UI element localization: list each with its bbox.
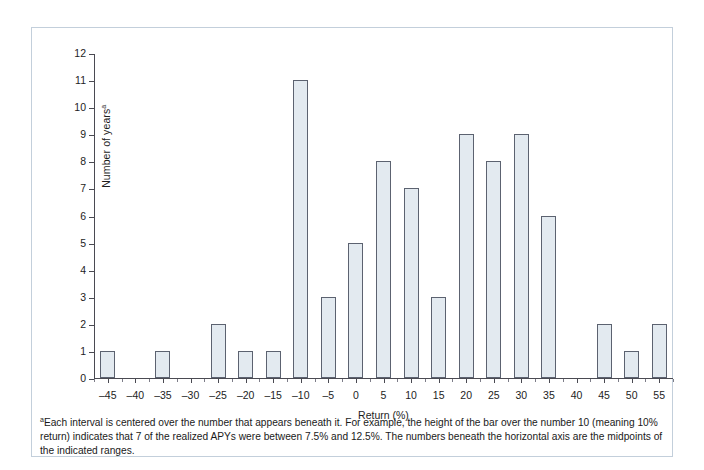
x-axis-minor-tick xyxy=(315,379,316,382)
y-axis-tick-label: 8 xyxy=(80,155,86,167)
y-axis-tick-label: 4 xyxy=(80,264,86,276)
bar xyxy=(321,297,336,378)
y-axis-tick-label: 11 xyxy=(75,74,86,86)
x-axis-tick-label: 45 xyxy=(598,389,610,401)
x-axis-tick-label: –25 xyxy=(209,389,227,401)
y-axis-tick-mark xyxy=(89,352,94,353)
x-axis-tick-mark xyxy=(604,379,605,383)
bar xyxy=(541,216,556,379)
x-axis-tick-mark xyxy=(356,379,357,383)
y-axis-tick-mark xyxy=(89,81,94,82)
x-axis-tick-mark xyxy=(135,379,136,383)
x-axis-minor-tick xyxy=(535,379,536,382)
x-axis-tick-label: 0 xyxy=(353,389,359,401)
bar xyxy=(155,351,170,378)
x-axis-minor-tick xyxy=(149,379,150,382)
bar xyxy=(431,297,446,378)
x-axis-tick-label: 25 xyxy=(488,389,500,401)
x-axis-minor-tick xyxy=(94,379,95,382)
x-axis-minor-tick xyxy=(480,379,481,382)
x-axis-tick-mark xyxy=(549,379,550,383)
x-axis-tick-label: 20 xyxy=(460,389,472,401)
x-axis-minor-tick xyxy=(397,379,398,382)
y-axis-line xyxy=(94,54,95,379)
y-axis-tick-label: 6 xyxy=(80,210,86,222)
x-axis-minor-tick xyxy=(232,379,233,382)
x-axis-minor-tick xyxy=(259,379,260,382)
bar xyxy=(486,161,501,378)
bar xyxy=(404,188,419,378)
x-axis-minor-tick xyxy=(122,379,123,382)
x-axis-minor-tick xyxy=(563,379,564,382)
x-axis-tick-mark xyxy=(301,379,302,383)
x-axis-minor-tick xyxy=(618,379,619,382)
bar xyxy=(652,324,667,378)
x-axis-minor-tick xyxy=(508,379,509,382)
x-axis-minor-tick xyxy=(204,379,205,382)
x-axis-tick-mark xyxy=(163,379,164,383)
y-axis-tick-label: 10 xyxy=(74,101,86,113)
x-axis-tick-label: –5 xyxy=(323,389,335,401)
x-axis-minor-tick xyxy=(452,379,453,382)
bar xyxy=(100,351,115,378)
x-axis-tick-label: 40 xyxy=(571,389,583,401)
x-axis-tick-mark xyxy=(494,379,495,383)
x-axis-tick-label: 30 xyxy=(516,389,528,401)
bar xyxy=(514,134,529,378)
bar xyxy=(376,161,391,378)
x-axis-tick-mark xyxy=(411,379,412,383)
x-axis-tick-label: 55 xyxy=(653,389,665,401)
bar xyxy=(238,351,253,378)
footnote-text: Each interval is centered over the numbe… xyxy=(40,417,662,455)
x-axis-tick-mark xyxy=(439,379,440,383)
x-axis-tick-label: 50 xyxy=(626,389,638,401)
x-axis-tick-mark xyxy=(521,379,522,383)
y-axis-tick-label: 3 xyxy=(80,291,86,303)
y-axis-tick-label: 7 xyxy=(80,182,86,194)
y-axis-tick-label: 2 xyxy=(80,318,86,330)
plot-area: 0123456789101112 –45–40–35–30–25–20–15–1… xyxy=(94,54,673,379)
x-axis-tick-label: –45 xyxy=(99,389,117,401)
x-axis-tick-label: 35 xyxy=(543,389,555,401)
x-axis-tick-label: –15 xyxy=(264,389,282,401)
x-axis-tick-mark xyxy=(108,379,109,383)
bar xyxy=(348,243,363,378)
x-axis-tick-mark xyxy=(659,379,660,383)
bar xyxy=(624,351,639,378)
bar xyxy=(597,324,612,378)
x-axis-minor-tick xyxy=(590,379,591,382)
x-axis-minor-tick xyxy=(645,379,646,382)
x-axis-tick-mark xyxy=(273,379,274,383)
x-axis-minor-tick xyxy=(425,379,426,382)
y-axis-tick-label: 0 xyxy=(80,372,86,384)
footnote: aEach interval is centered over the numb… xyxy=(40,413,663,457)
chart-region: Number of yearsa 0123456789101112 –45–40… xyxy=(32,28,674,388)
x-axis-tick-label: –10 xyxy=(292,389,310,401)
x-axis-tick-mark xyxy=(218,379,219,383)
x-axis-tick-label: 5 xyxy=(381,389,387,401)
y-axis-tick-mark xyxy=(89,108,94,109)
y-axis-tick-mark xyxy=(89,298,94,299)
y-axis-tick-label: 9 xyxy=(80,128,86,140)
y-axis-tick-mark xyxy=(89,325,94,326)
y-axis-tick-label: 5 xyxy=(80,237,86,249)
bar xyxy=(211,324,226,378)
x-axis-minor-tick xyxy=(370,379,371,382)
x-axis-minor-tick xyxy=(342,379,343,382)
x-axis-tick-mark xyxy=(577,379,578,383)
x-axis-tick-mark xyxy=(466,379,467,383)
x-axis-tick-label: –30 xyxy=(182,389,200,401)
bar xyxy=(293,80,308,378)
x-axis-tick-mark xyxy=(328,379,329,383)
y-axis-tick-mark xyxy=(89,217,94,218)
y-axis-tick-mark xyxy=(89,271,94,272)
x-axis-tick-mark xyxy=(384,379,385,383)
figure-frame: Number of yearsa 0123456789101112 –45–40… xyxy=(31,27,673,457)
y-axis-tick-mark xyxy=(89,244,94,245)
y-axis-tick-mark xyxy=(89,135,94,136)
y-axis-tick-mark xyxy=(89,54,94,55)
bar xyxy=(459,134,474,378)
x-axis-minor-tick xyxy=(177,379,178,382)
y-axis-tick-mark xyxy=(89,189,94,190)
x-axis-tick-label: –40 xyxy=(127,389,145,401)
